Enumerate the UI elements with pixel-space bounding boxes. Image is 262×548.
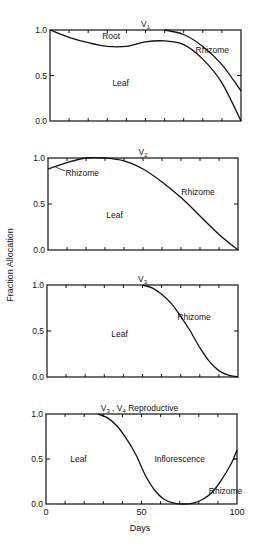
y-tick-label: 0.5 [33, 199, 45, 209]
region-label-leaf: Leaf [106, 210, 123, 220]
region-label-rhizome: Rhizome [177, 312, 211, 322]
y-tick-label: 0.5 [31, 454, 43, 464]
y-axis-label: Fraction Allocation [5, 228, 15, 302]
panel-title: V3 , V4 Reproductive [101, 403, 179, 414]
boundary-leaf_root [50, 30, 241, 121]
y-tick-label: 0.0 [31, 499, 43, 509]
region-label-leaf: Leaf [111, 329, 128, 339]
panel-title: V3 [138, 274, 148, 285]
region-label-leaf: Leaf [112, 78, 129, 88]
label-leader [56, 167, 66, 171]
panel-title: V1 [141, 19, 151, 30]
region-label-inflorescence: Inflorescence [154, 454, 205, 464]
panel-3: 1.00.50.0V3LeafRhizome [32, 274, 238, 382]
boundary-root_rhizome [165, 30, 241, 91]
y-tick-label: 0.0 [32, 372, 44, 382]
plot-frame [47, 285, 238, 377]
panel-4: 1.00.50.0V3 , V4 ReproductiveLeafInflore… [31, 403, 244, 517]
region-label-rhizome: Rhizome [181, 187, 215, 197]
x-tick-label: 0 [43, 507, 48, 517]
region-label-rhizome: Rhizome [209, 486, 243, 496]
panel-title: V2 [138, 147, 148, 158]
y-tick-label: 1.0 [33, 153, 45, 163]
region-label-root: Root [102, 31, 121, 41]
y-tick-label: 0.0 [33, 245, 45, 255]
region-label-leaf: Leaf [70, 454, 87, 464]
plot-frame [50, 30, 241, 121]
y-tick-label: 1.0 [31, 409, 43, 419]
boundary-leaf_rhizome [143, 285, 239, 377]
x-axis-label: Days [130, 523, 151, 533]
region-label-rhizome: Rhizome [196, 45, 230, 55]
figure: Fraction Allocation 1.00.50.0V1RootLeafR… [0, 0, 262, 548]
y-tick-label: 0.5 [32, 326, 44, 336]
region-label-rhizome: Rhizome [65, 168, 99, 178]
x-tick-label: 50 [136, 507, 146, 517]
y-tick-label: 0.0 [35, 116, 47, 126]
y-tick-label: 0.5 [35, 71, 47, 81]
panel-2: 1.00.50.0V2RhizomeLeafRhizome [33, 147, 238, 255]
y-tick-label: 1.0 [32, 280, 44, 290]
x-tick-label: 100 [229, 507, 244, 517]
y-tick-label: 1.0 [35, 25, 47, 35]
panel-1: 1.00.50.0V1RootLeafRhizome [35, 19, 241, 126]
